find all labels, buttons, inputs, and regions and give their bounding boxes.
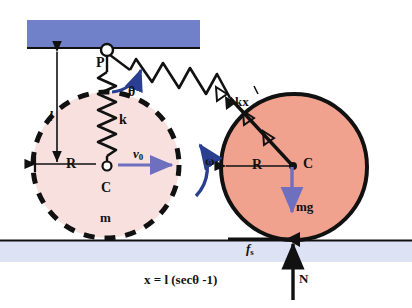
label-center-right-C: C	[303, 157, 313, 171]
physics-diagram: P l θ k kx R R C C m v0 ω0 mg fs N x = l…	[0, 0, 412, 308]
equation-text: x = l (secθ -1)	[144, 273, 217, 286]
label-angular-velocity-w0: ω0	[205, 154, 219, 169]
label-radius-left-R: R	[66, 157, 76, 171]
label-radius-right-R: R	[252, 158, 262, 172]
ceiling-support	[27, 20, 200, 48]
label-length-l: l	[49, 110, 53, 124]
label-friction-fs: fs	[246, 242, 254, 257]
label-velocity-v0: v0	[133, 147, 143, 162]
label-normal-N: N	[299, 272, 308, 285]
label-center-left-C: C	[101, 181, 111, 195]
label-friction-subscript: s	[250, 247, 253, 257]
label-weight-mg: mg	[296, 200, 313, 213]
angle-arc	[112, 70, 141, 92]
label-mass-m: m	[100, 211, 111, 224]
label-angular-velocity-subscript: 0	[215, 159, 219, 169]
ground-surface	[0, 241, 412, 263]
label-velocity-subscript: 0	[139, 152, 143, 162]
prime-tick	[254, 86, 258, 94]
label-spring-constant-k: k	[119, 113, 127, 127]
label-spring-force-kx: kx	[235, 95, 249, 108]
label-angle-theta: θ	[128, 85, 135, 99]
label-angular-velocity-symbol: ω	[205, 153, 215, 168]
label-pivot-P: P	[96, 56, 105, 70]
